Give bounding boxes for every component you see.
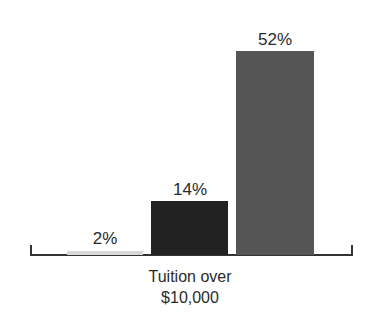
x-axis-left-tick: [30, 245, 32, 256]
bar-series-2: [151, 201, 228, 255]
bar-series-3: [236, 51, 314, 255]
bar-value-label-3: 52%: [235, 30, 315, 50]
category-label-line-2: $10,000: [110, 287, 270, 308]
x-axis-right-tick: [351, 245, 353, 256]
bar-series-1: [67, 251, 143, 255]
bar-value-label-1: 2%: [65, 229, 145, 249]
category-label-line-1: Tuition over: [110, 266, 270, 287]
category-label: Tuition over $10,000: [110, 266, 270, 308]
bar-value-label-2: 14%: [150, 180, 230, 200]
